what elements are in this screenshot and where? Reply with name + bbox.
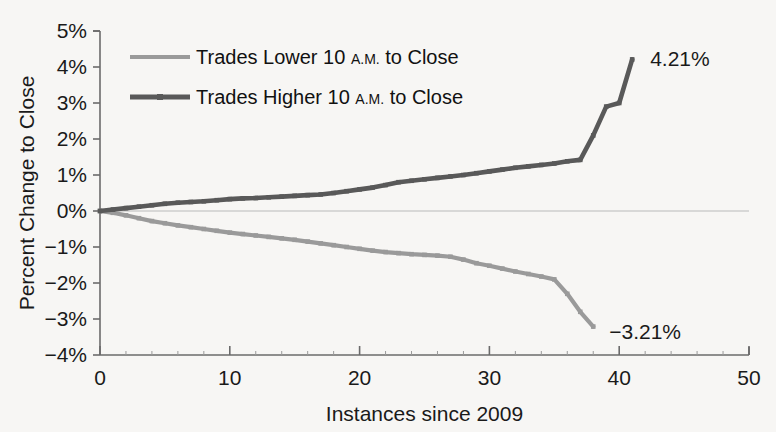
y-axis-tick-label: −2% — [44, 271, 87, 294]
data-point-marker — [137, 216, 142, 221]
data-point-marker — [526, 272, 531, 277]
annotation-upper-end-value: 4.21% — [650, 47, 710, 70]
data-point-marker — [279, 236, 284, 241]
annotation-lower-end-value: −3.21% — [609, 320, 681, 343]
y-axis-tick-label: 3% — [57, 91, 87, 114]
y-axis-tick-label: 5% — [57, 19, 87, 42]
data-point-marker — [215, 198, 220, 203]
data-point-marker — [292, 194, 297, 199]
x-axis-title: Instances since 2009 — [326, 402, 523, 425]
data-point-marker — [526, 164, 531, 169]
data-point-marker — [552, 277, 557, 282]
x-axis-tick-label: 20 — [348, 366, 371, 389]
data-point-marker — [604, 104, 609, 109]
data-point-marker — [435, 253, 440, 258]
data-point-marker — [552, 161, 557, 166]
data-point-marker — [370, 248, 375, 253]
data-point-marker — [189, 200, 194, 205]
data-point-marker — [487, 169, 492, 174]
data-point-marker — [215, 229, 220, 234]
data-point-marker — [539, 274, 544, 279]
data-point-marker — [137, 204, 142, 209]
data-point-marker — [266, 235, 271, 240]
legend-label-trades-higher: Trades Higher 10 A.M. to Close — [196, 86, 463, 108]
data-point-marker — [240, 196, 245, 201]
data-point-marker — [305, 193, 310, 198]
data-point-marker — [630, 57, 635, 62]
data-point-marker — [617, 101, 622, 106]
data-point-marker — [318, 192, 323, 197]
data-point-marker — [176, 223, 181, 228]
data-point-marker — [279, 194, 284, 199]
data-point-marker — [357, 247, 362, 252]
data-point-marker — [474, 171, 479, 176]
data-point-marker — [111, 207, 116, 212]
data-point-marker — [98, 209, 103, 214]
y-axis-tick-label: −1% — [44, 235, 87, 258]
data-point-marker — [344, 245, 349, 250]
data-point-marker — [578, 310, 583, 315]
data-point-marker — [383, 250, 388, 255]
data-point-marker — [253, 233, 258, 238]
x-axis-tick-label: 10 — [218, 366, 241, 389]
data-point-marker — [228, 230, 233, 235]
data-point-marker — [500, 266, 505, 271]
data-point-marker — [461, 257, 466, 262]
data-point-marker — [150, 203, 155, 208]
x-axis-tick-label: 0 — [94, 366, 106, 389]
data-point-marker — [344, 189, 349, 194]
y-axis-tick-label: 4% — [57, 55, 87, 78]
series-line-trades-lower — [100, 211, 593, 327]
data-point-marker — [163, 221, 168, 226]
data-point-marker — [202, 199, 207, 204]
data-point-marker — [565, 159, 570, 164]
data-point-marker — [331, 191, 336, 196]
data-point-marker — [435, 176, 440, 181]
data-point-marker — [474, 261, 479, 266]
data-point-marker — [370, 185, 375, 190]
x-axis-tick-label: 30 — [478, 366, 501, 389]
data-point-marker — [176, 200, 181, 205]
data-point-marker — [150, 219, 155, 224]
chart-container: 5%4%3%2%1%0%−1%−2%−3%−4%01020304050Insta… — [0, 0, 776, 432]
x-axis-tick-label: 50 — [737, 366, 760, 389]
y-axis-tick-label: −3% — [44, 307, 87, 330]
legend-label-trades-lower: Trades Lower 10 A.M. to Close — [196, 46, 459, 68]
data-point-marker — [396, 251, 401, 256]
data-point-marker — [292, 238, 297, 243]
data-point-marker — [396, 180, 401, 185]
data-point-marker — [448, 174, 453, 179]
data-point-marker — [240, 232, 245, 237]
data-point-marker — [422, 253, 427, 258]
y-axis-tick-label: 2% — [57, 127, 87, 150]
y-axis-tick-label: 1% — [57, 163, 87, 186]
data-point-marker — [228, 197, 233, 202]
data-point-marker — [253, 196, 258, 201]
data-point-marker — [305, 239, 310, 244]
data-point-marker — [124, 206, 129, 211]
data-point-marker — [591, 324, 596, 329]
data-point-marker — [565, 292, 570, 297]
data-point-marker — [266, 195, 271, 200]
line-chart: 5%4%3%2%1%0%−1%−2%−3%−4%01020304050Insta… — [0, 0, 776, 432]
data-point-marker — [202, 227, 207, 232]
data-point-marker — [513, 269, 518, 274]
data-point-marker — [461, 173, 466, 178]
data-point-marker — [500, 167, 505, 172]
x-axis-tick-label: 40 — [608, 366, 631, 389]
data-point-marker — [331, 243, 336, 248]
series-line-trades-higher — [100, 59, 632, 211]
data-point-marker — [487, 263, 492, 268]
data-point-marker — [409, 252, 414, 257]
data-point-marker — [578, 158, 583, 163]
data-point-marker — [591, 133, 596, 138]
data-point-marker — [189, 225, 194, 230]
data-point-marker — [163, 202, 168, 207]
y-axis-tick-label: −4% — [44, 343, 87, 366]
data-point-marker — [124, 213, 129, 218]
data-point-marker — [513, 166, 518, 171]
data-point-marker — [422, 177, 427, 182]
y-axis-title: Percent Change to Close — [15, 76, 38, 311]
data-point-marker — [448, 254, 453, 259]
data-point-marker — [383, 183, 388, 188]
